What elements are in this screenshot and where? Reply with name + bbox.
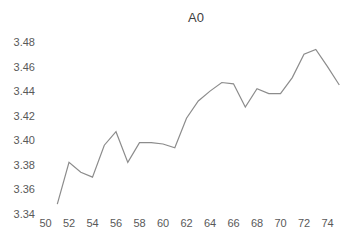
x-axis: 50525456586062646668707274: [39, 217, 333, 229]
x-tick-label: 50: [39, 217, 51, 229]
x-tick-label: 58: [133, 217, 145, 229]
x-tick-label: 66: [227, 217, 239, 229]
series-group: [57, 49, 339, 204]
x-tick-label: 72: [298, 217, 310, 229]
x-tick-label: 68: [251, 217, 263, 229]
x-tick-label: 74: [321, 217, 333, 229]
y-tick-label: 3.44: [14, 85, 35, 97]
y-tick-label: 3.36: [14, 183, 35, 195]
x-tick-label: 70: [274, 217, 286, 229]
x-tick-label: 52: [63, 217, 75, 229]
y-tick-label: 3.34: [14, 208, 35, 220]
y-axis: 3.343.363.383.403.423.443.463.48: [14, 36, 35, 220]
series-line-a0: [57, 49, 339, 204]
y-tick-label: 3.40: [14, 134, 35, 146]
y-tick-label: 3.46: [14, 61, 35, 73]
chart-title: A0: [188, 10, 204, 25]
line-chart: A0 3.343.363.383.403.423.443.463.48 5052…: [0, 0, 351, 241]
x-tick-label: 60: [157, 217, 169, 229]
y-tick-label: 3.38: [14, 159, 35, 171]
y-tick-label: 3.42: [14, 110, 35, 122]
x-tick-label: 56: [110, 217, 122, 229]
x-tick-label: 62: [180, 217, 192, 229]
x-tick-label: 54: [86, 217, 98, 229]
x-tick-label: 64: [204, 217, 216, 229]
y-tick-label: 3.48: [14, 36, 35, 48]
